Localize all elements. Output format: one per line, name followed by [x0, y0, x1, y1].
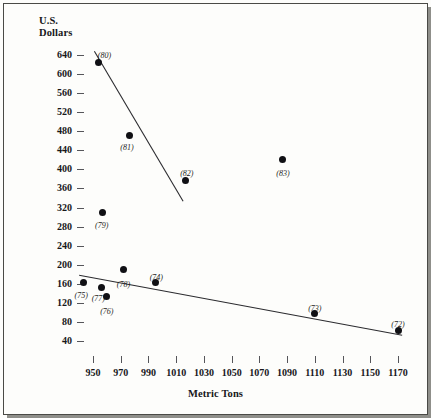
data-point	[126, 132, 133, 139]
data-point-label: (72)	[381, 320, 415, 329]
data-point-label: (82)	[170, 169, 204, 178]
x-tick-mark	[204, 356, 205, 363]
y-tick-mark	[77, 246, 84, 247]
y-tick-mark	[77, 93, 84, 94]
data-point-label: (81)	[110, 143, 144, 152]
y-tick-label: 280	[38, 222, 72, 232]
y-tick-mark	[77, 188, 84, 189]
data-point-label: (76)	[90, 307, 124, 316]
y-tick-label: 600	[38, 69, 72, 79]
y-tick-label: 240	[38, 241, 72, 251]
x-tick-mark	[398, 356, 399, 363]
y-tick-mark	[77, 169, 84, 170]
data-point	[279, 156, 286, 163]
x-tick-mark	[315, 356, 316, 363]
y-tick-label: 160	[38, 279, 72, 289]
y-tick-label: 480	[38, 126, 72, 136]
data-point	[80, 279, 87, 286]
y-tick-mark	[77, 341, 84, 342]
x-tick-mark	[370, 356, 371, 363]
data-point-label: (78)	[107, 280, 141, 289]
y-tick-mark	[77, 150, 84, 151]
y-axis-title-line2: Dollars	[39, 27, 109, 39]
y-axis-title-line1: U.S.	[39, 15, 109, 27]
data-point-label: (80)	[88, 51, 122, 60]
x-tick-mark	[121, 356, 122, 363]
y-tick-mark	[77, 112, 84, 113]
data-point	[98, 284, 105, 291]
y-tick-mark	[77, 131, 84, 132]
x-axis-title: Metric Tons	[0, 388, 431, 400]
y-tick-mark	[77, 55, 84, 56]
y-tick-mark	[77, 74, 84, 75]
data-point	[99, 209, 106, 216]
y-tick-label: 400	[38, 164, 72, 174]
y-tick-label: 320	[38, 203, 72, 213]
y-tick-label: 560	[38, 88, 72, 98]
data-point-label: (77)	[81, 294, 115, 303]
y-axis-title: U.S. Dollars	[39, 15, 109, 39]
y-tick-label: 440	[38, 145, 72, 155]
y-tick-mark	[77, 303, 84, 304]
x-tick-mark	[287, 356, 288, 363]
x-tick-mark	[232, 356, 233, 363]
y-tick-label: 360	[38, 183, 72, 193]
x-tick-mark	[259, 356, 260, 363]
chart-page: U.S. Dollars Metric Tons 640600560520480…	[0, 0, 431, 418]
data-point	[120, 266, 127, 273]
y-tick-mark	[77, 322, 84, 323]
x-tick-label: 1170	[378, 368, 418, 378]
x-tick-mark	[93, 356, 94, 363]
data-point-label: (74)	[139, 273, 173, 282]
data-point-label: (79)	[85, 221, 119, 230]
data-point-label: (83)	[266, 169, 300, 178]
y-tick-label: 520	[38, 107, 72, 117]
y-tick-label: 40	[38, 336, 72, 346]
x-tick-mark	[176, 356, 177, 363]
y-tick-mark	[77, 208, 84, 209]
x-tick-mark	[148, 356, 149, 363]
y-tick-label: 640	[38, 50, 72, 60]
y-tick-mark	[77, 265, 84, 266]
data-point-label: (73)	[298, 304, 332, 313]
y-tick-label: 200	[38, 260, 72, 270]
y-tick-mark	[77, 227, 84, 228]
y-tick-label: 80	[38, 317, 72, 327]
plot-area: U.S. Dollars Metric Tons 640600560520480…	[0, 0, 431, 418]
upper-regression-line	[94, 51, 183, 201]
x-tick-mark	[343, 356, 344, 363]
